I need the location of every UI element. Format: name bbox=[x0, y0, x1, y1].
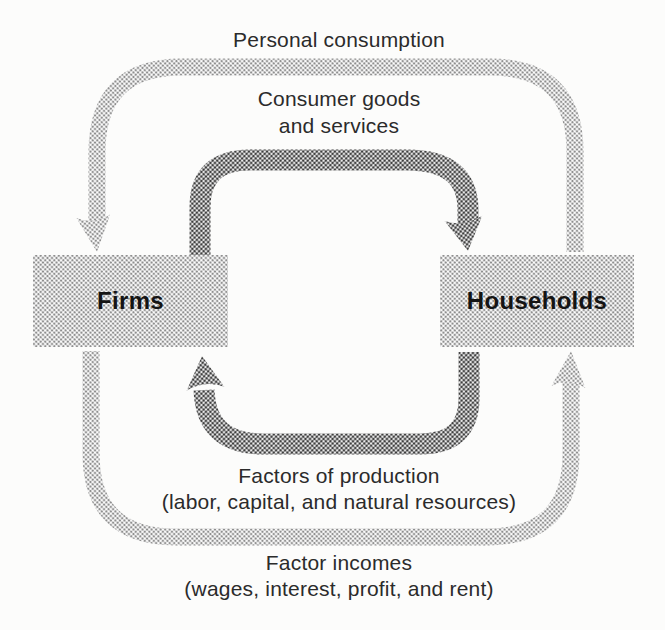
outer-bottom-arrowhead-into-households bbox=[552, 350, 588, 388]
personal-consumption-label: Personal consumption bbox=[233, 27, 445, 53]
factor-incomes-line2: (wages, interest, profit, and rent) bbox=[184, 576, 493, 602]
firms-label: Firms bbox=[33, 255, 228, 347]
factor-incomes-label: Factor incomes (wages, interest, profit,… bbox=[184, 550, 493, 602]
factors-of-production-line2: (labor, capital, and natural resources) bbox=[162, 489, 517, 515]
factors-of-production-line1: Factors of production bbox=[162, 463, 517, 489]
consumer-goods-line1: Consumer goods bbox=[258, 85, 421, 112]
circular-flow-diagram: Firms Households Personal consumption Co… bbox=[0, 0, 665, 630]
consumer-goods-line2: and services bbox=[258, 112, 421, 139]
inner-bottom-arc bbox=[204, 352, 469, 444]
inner-bottom-arrowhead-into-firms bbox=[183, 354, 224, 391]
consumer-goods-label: Consumer goods and services bbox=[258, 85, 421, 139]
households-label: Households bbox=[440, 255, 634, 347]
factors-of-production-label: Factors of production (labor, capital, a… bbox=[162, 463, 517, 515]
factor-incomes-line1: Factor incomes bbox=[184, 550, 493, 576]
inner-top-arc bbox=[200, 160, 468, 257]
